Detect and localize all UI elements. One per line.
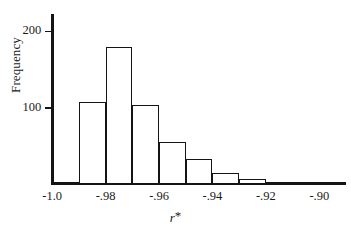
histogram-bar — [239, 179, 266, 184]
histogram-bar — [132, 105, 159, 184]
histogram-bar — [319, 182, 346, 184]
histogram-bar — [79, 102, 106, 184]
x-axis-tick-label: -.98 — [83, 190, 129, 203]
histogram-bar — [186, 159, 213, 184]
x-axis-tick-label: -.92 — [243, 190, 289, 203]
histogram-figure: Frequency r* 100200 -1.0-.98-.96-.94-.92… — [0, 0, 351, 233]
histogram-bar — [212, 173, 239, 184]
y-axis-tick-label: 100 — [7, 101, 41, 113]
histogram-bar — [293, 182, 320, 184]
y-axis-tick-label: 200 — [7, 24, 41, 36]
histogram-bar — [159, 142, 186, 184]
x-axis-tick-label: -.94 — [189, 190, 235, 203]
histogram-bar — [52, 182, 79, 184]
x-axis-tick-label: -.90 — [296, 190, 342, 203]
plot-area: 100200 -1.0-.98-.96-.94-.92-.90 — [0, 0, 351, 233]
y-axis-tick-mark — [45, 107, 54, 109]
histogram-bar — [106, 47, 133, 184]
x-axis-tick-label: -.96 — [136, 190, 182, 203]
y-axis-tick-mark — [45, 31, 54, 33]
y-axis-line — [51, 14, 54, 185]
histogram-bar — [266, 182, 293, 184]
x-axis-tick-label: -1.0 — [29, 190, 75, 203]
